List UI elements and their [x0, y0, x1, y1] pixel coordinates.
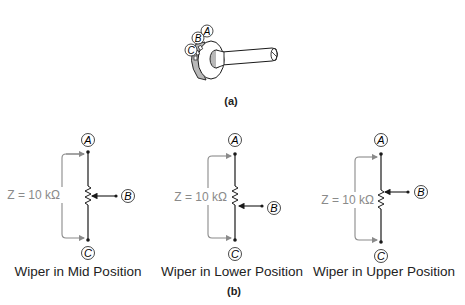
impedance-label: Z = 10 kΩ — [7, 188, 60, 202]
terminal-c-label: C — [229, 248, 242, 261]
svg-text:B: B — [195, 33, 202, 44]
potentiometer-drawing: A B C — [185, 25, 278, 80]
svg-text:A: A — [83, 134, 91, 146]
resistor-icon — [378, 190, 384, 209]
terminal-b-label: B — [415, 186, 428, 199]
terminal-b-label: B — [268, 202, 281, 215]
terminal-a-label: A — [375, 134, 388, 147]
figure-a-label: (a) — [224, 95, 237, 107]
svg-text:A: A — [203, 26, 211, 37]
svg-text:C: C — [84, 247, 92, 259]
impedance-bracket — [62, 154, 84, 187]
svg-text:C: C — [377, 250, 385, 262]
terminal-b-label: B — [122, 190, 135, 203]
schematic-mid-position: A B C Z = 10 kΩ — [7, 134, 134, 260]
caption-lower-position: Wiper in Lower Position — [161, 264, 303, 279]
terminal-label-b: B — [192, 32, 204, 44]
svg-text:B: B — [270, 202, 277, 214]
resistor-icon — [85, 186, 91, 205]
resistor-icon — [232, 186, 238, 205]
svg-text:A: A — [376, 134, 384, 146]
svg-text:C: C — [231, 248, 239, 260]
terminal-a-label: A — [229, 134, 242, 147]
caption-mid-position: Wiper in Mid Position — [15, 264, 142, 279]
figure-b-label: (b) — [227, 285, 241, 297]
impedance-label: Z = 10 kΩ — [321, 193, 374, 207]
svg-text:C: C — [187, 45, 195, 56]
caption-upper-position: Wiper in Upper Position — [313, 264, 455, 279]
impedance-label: Z = 10 kΩ — [174, 190, 227, 204]
terminal-label-c: C — [185, 44, 197, 56]
svg-text:A: A — [230, 134, 238, 146]
schematic-upper-position: A B C Z = 10 kΩ — [321, 134, 427, 263]
terminal-a-label: A — [82, 134, 95, 147]
svg-text:B: B — [417, 186, 424, 198]
terminal-c-label: C — [82, 247, 95, 260]
schematic-lower-position: A B C Z = 10 kΩ — [174, 134, 280, 261]
terminal-c-label: C — [375, 250, 388, 263]
svg-text:B: B — [124, 190, 131, 202]
